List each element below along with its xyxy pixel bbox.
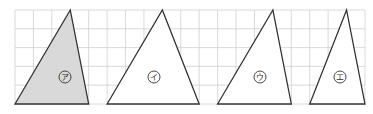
triangle-label: ウ	[256, 73, 264, 82]
triangle-grid-diagram: アイウエ	[0, 0, 373, 114]
triangle-label: イ	[150, 73, 158, 82]
triangle-shape	[310, 10, 365, 104]
grid-canvas: アイウエ	[0, 0, 373, 114]
triangle-e: エ	[310, 10, 365, 104]
triangle-label: エ	[336, 73, 344, 82]
triangle-shape	[107, 10, 199, 104]
triangle-i: イ	[107, 10, 199, 104]
triangle-label: ア	[61, 73, 69, 82]
triangles: アイウエ	[15, 10, 365, 104]
